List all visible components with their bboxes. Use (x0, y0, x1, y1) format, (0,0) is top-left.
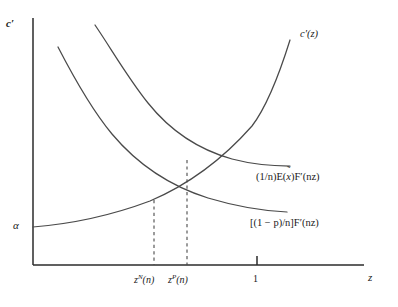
tick-label-one: 1 (253, 274, 258, 284)
tick-label-zp: zP(n) (168, 274, 188, 285)
curve-label-marginal-cost-text: c′(z) (300, 28, 318, 39)
alpha-intercept-label: α (13, 220, 19, 231)
marginal-cost-diagram: c′ α z c′(z) (1/n)E(˜x)F′(nz) [(1 − p)/n… (0, 0, 398, 307)
y-axis-label: c′ (6, 18, 14, 29)
x-axis-label: z (368, 272, 372, 283)
tick-label-zn-tail: (n) (143, 274, 155, 285)
expected-label-prefix: (1/n)E( (256, 171, 286, 182)
curve-label-private-benefit: [(1 − p)/n]F′(nz) (250, 218, 319, 229)
expected-label-variable: ˜x (286, 172, 291, 183)
curve-marginal-cost (33, 40, 290, 227)
curve-label-marginal-cost: c′(z) (300, 29, 318, 40)
plot-canvas (0, 0, 398, 307)
curve-label-expected-benefit: (1/n)E(˜x)F′(nz) (256, 172, 320, 183)
tick-label-zp-tail: (n) (176, 274, 188, 285)
expected-label-suffix: )F′(nz) (291, 171, 320, 182)
curve-private-marginal-benefit (58, 47, 287, 212)
curve-expected-marginal-benefit (95, 25, 290, 166)
tick-label-zn: zN(n) (134, 274, 154, 285)
tilde-accent: ˜ (287, 166, 290, 176)
